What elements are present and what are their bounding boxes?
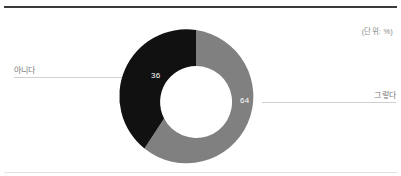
slice-value-no: 36 bbox=[151, 71, 161, 80]
donut-chart-card: (단위: %) 36 64 아니다 그렇다 bbox=[0, 0, 401, 176]
bottom-divider bbox=[4, 172, 397, 173]
slice-value-yes: 64 bbox=[240, 96, 250, 105]
donut-chart-graphic bbox=[0, 0, 401, 176]
callout-label-yes: 그렇다 bbox=[374, 89, 396, 100]
callout-label-no: 아니다 bbox=[14, 64, 36, 75]
